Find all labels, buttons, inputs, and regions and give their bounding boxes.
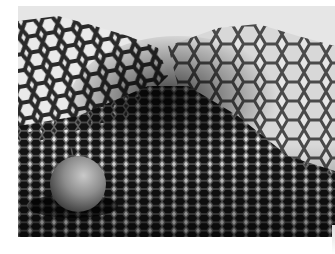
honeycomb-scene	[18, 6, 335, 237]
honeycomb-photo	[18, 6, 335, 237]
